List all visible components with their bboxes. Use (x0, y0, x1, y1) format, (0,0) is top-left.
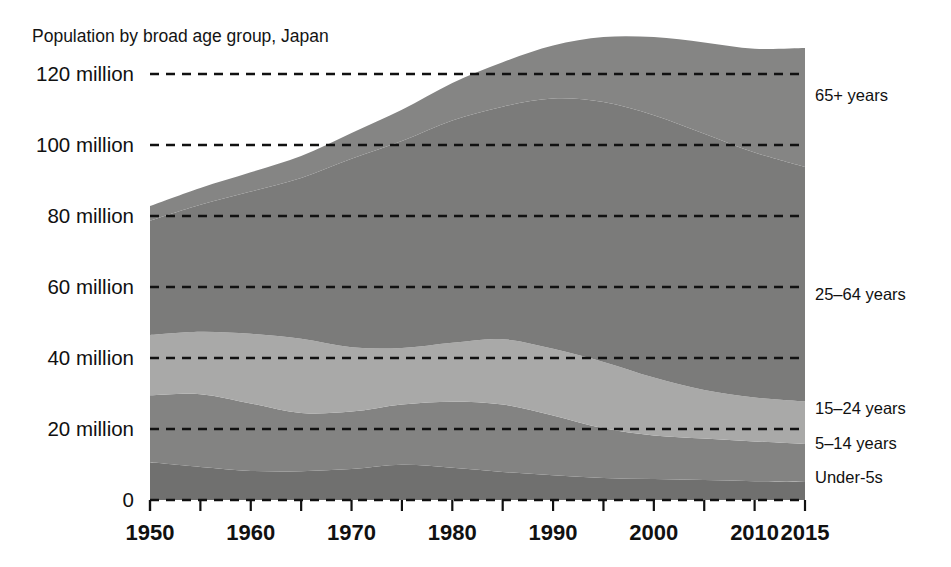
series-label-65-years: 65+ years (815, 86, 888, 104)
x-tick-label-2000: 2000 (629, 520, 678, 545)
x-tick-label-1980: 1980 (428, 520, 477, 545)
x-tick-label-1990: 1990 (529, 520, 578, 545)
x-tick-label-1970: 1970 (327, 520, 376, 545)
y-tick-label-0: 0 (123, 488, 134, 511)
y-tick-label-100: 100 million (36, 133, 134, 156)
page-title: Population by broad age group, Japan (32, 26, 329, 46)
x-tick-label-1950: 1950 (126, 520, 175, 545)
series-label-under-5s: Under-5s (815, 468, 883, 486)
y-tick-label-40: 40 million (47, 346, 134, 369)
y-tick-label-60: 60 million (47, 275, 134, 298)
population-stacked-area-chart: Population by broad age group, Japan 020… (0, 0, 951, 567)
series-label-5-14-years: 5–14 years (815, 434, 897, 452)
series-label-25-64-years: 25–64 years (815, 285, 906, 303)
x-tick-label-1960: 1960 (226, 520, 275, 545)
series-label-15-24-years: 15–24 years (815, 399, 906, 417)
x-tick-label-2015: 2015 (781, 520, 830, 545)
x-tick-label-2010: 2010 (730, 520, 779, 545)
y-tick-label-20: 20 million (47, 417, 134, 440)
y-tick-label-120: 120 million (36, 62, 134, 85)
y-tick-label-80: 80 million (47, 204, 134, 227)
